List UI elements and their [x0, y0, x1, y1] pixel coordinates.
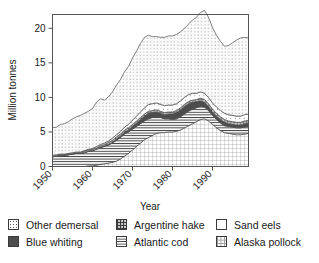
legend-item-other-demersal[interactable]: Other demersal [8, 219, 116, 231]
y-axis-ticks: 05101520 [34, 23, 52, 172]
x-axis-title: Year [140, 201, 161, 212]
legend-item-argentine-hake[interactable]: Argentine hake [116, 219, 216, 231]
x-tick-label: 1950 [30, 168, 54, 192]
legend-item-blue-whiting[interactable]: Blue whiting [8, 236, 116, 248]
legend-swatch-grid-icon [216, 236, 227, 247]
y-tick-label: 5 [40, 126, 46, 137]
x-tick-label: 1970 [110, 168, 134, 192]
legend-label: Atlantic cod [134, 236, 188, 248]
legend-item-atlantic-cod[interactable]: Atlantic cod [116, 236, 216, 248]
area-layers [53, 10, 249, 166]
legend-row: Other demersal Argentine hake Sand eels [8, 216, 311, 233]
stacked-area-chart: 05101520 19501960197019801990 Million to… [0, 0, 319, 263]
chart-legend: Other demersal Argentine hake Sand eels … [8, 216, 311, 250]
legend-item-alaska-pollock[interactable]: Alaska pollock [216, 236, 311, 248]
legend-label: Alaska pollock [234, 236, 301, 248]
legend-swatch-fine-dots-icon [8, 219, 19, 230]
y-tick-label: 15 [34, 57, 46, 68]
legend-swatch-crosshatch-icon [116, 219, 127, 230]
legend-label: Other demersal [26, 219, 98, 231]
y-tick-label: 10 [34, 92, 46, 103]
legend-label: Sand eels [234, 219, 281, 231]
y-tick-label: 20 [34, 23, 46, 34]
y-axis-title: Million tonnes [7, 59, 18, 120]
x-tick-label: 1960 [70, 168, 94, 192]
plot-svg: 05101520 19501960197019801990 Million to… [0, 0, 319, 216]
legend-item-sand-eels[interactable]: Sand eels [216, 219, 311, 231]
legend-swatch-sparse-dots-icon [216, 219, 227, 230]
x-tick-label: 1980 [150, 168, 174, 192]
legend-label: Argentine hake [134, 219, 205, 231]
x-tick-label: 1990 [190, 168, 214, 192]
legend-row: Blue whiting Atlantic cod Alaska pollock [8, 233, 311, 250]
legend-label: Blue whiting [26, 236, 83, 248]
x-axis-ticks: 19501960197019801990 [30, 167, 214, 192]
legend-swatch-solid-dark-icon [8, 236, 19, 247]
legend-swatch-horizontal-lines-icon [116, 236, 127, 247]
